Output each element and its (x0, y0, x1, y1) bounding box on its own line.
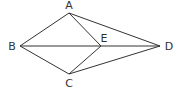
edges (20, 13, 160, 74)
label-b: B (8, 40, 16, 53)
geometry-diagram: A B C D E (0, 0, 181, 91)
edge-a-d (69, 13, 160, 46)
edge-c-e (69, 46, 101, 74)
edge-a-b (20, 13, 69, 46)
edge-a-e (69, 13, 101, 46)
labels: A B C D E (8, 0, 173, 90)
edge-c-d (69, 46, 160, 74)
label-a: A (65, 0, 73, 12)
label-c: C (65, 77, 73, 90)
label-d: D (165, 40, 173, 53)
label-e: E (101, 32, 108, 45)
edge-b-c (20, 46, 69, 74)
